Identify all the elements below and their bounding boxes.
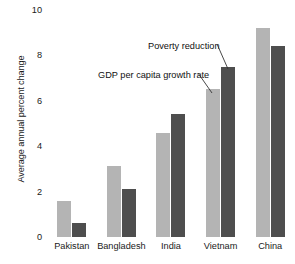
bar — [122, 189, 136, 237]
bar — [107, 166, 121, 238]
x-axis-tick-label: Vietnam — [196, 240, 246, 252]
bar-chart: Average annual percent change 0246810 Pa… — [0, 0, 295, 264]
bar — [156, 133, 170, 237]
x-axis-tick-label: India — [146, 240, 196, 252]
annotation-gdp-per-capita-growth-rate: GDP per capita growth rate — [98, 70, 209, 81]
y-axis-ticks: 0246810 — [14, 0, 42, 264]
bar — [271, 46, 285, 237]
y-axis-tick-label: 8 — [18, 50, 42, 60]
bar — [57, 201, 71, 237]
bar-group — [245, 10, 295, 237]
bar-group — [47, 10, 97, 237]
bar — [221, 67, 235, 237]
bar-group — [97, 10, 147, 237]
annotation-poverty-reduction: Poverty reduction — [148, 41, 220, 52]
y-axis-tick-label: 2 — [18, 187, 42, 197]
y-axis-tick-label: 6 — [18, 96, 42, 106]
x-axis-tick-label: Pakistan — [47, 240, 97, 252]
y-axis-tick-label: 0 — [18, 232, 42, 242]
x-axis-tick-label: Bangladesh — [97, 240, 147, 252]
x-axis-tick-label: China — [245, 240, 295, 252]
y-axis-tick-label: 4 — [18, 141, 42, 151]
bar — [256, 28, 270, 237]
y-axis-tick-label: 10 — [18, 5, 42, 15]
bar — [72, 223, 86, 237]
x-axis-ticks: PakistanBangladeshIndiaVietnamChina — [47, 240, 295, 258]
bar — [206, 89, 220, 237]
bar — [171, 114, 185, 237]
